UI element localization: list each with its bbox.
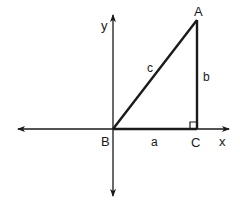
y-axis-label: y	[101, 18, 108, 33]
vertex-label-c: C	[191, 135, 200, 150]
side-c-hypotenuse	[113, 20, 197, 129]
side-label-c: c	[147, 61, 153, 75]
side-label-a: a	[151, 135, 158, 149]
vertex-label-a: A	[194, 4, 203, 19]
x-axis-label: x	[219, 134, 226, 149]
triangle-diagram: y x A B C c b a	[0, 0, 240, 206]
side-label-b: b	[203, 70, 210, 84]
vertex-label-b: B	[101, 134, 110, 149]
